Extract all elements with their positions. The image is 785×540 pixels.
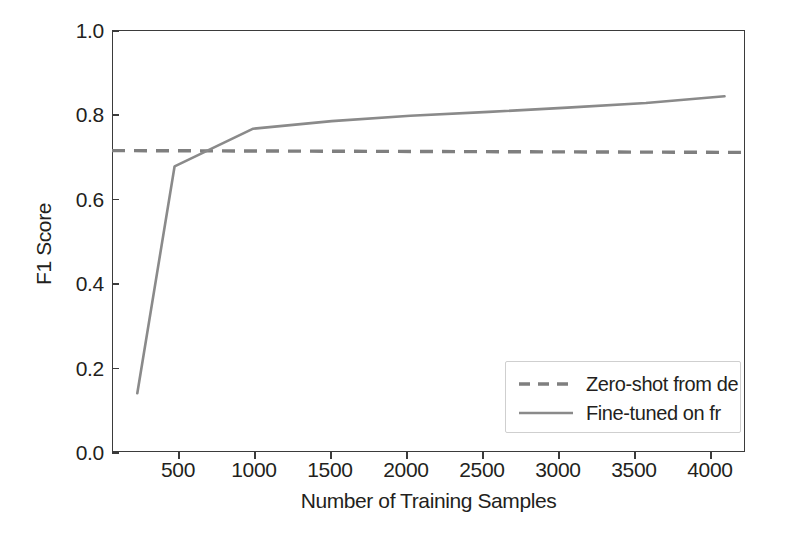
legend-label-zero-shot-from-de: Zero-shot from de [586,373,738,395]
ytick-mark-0.2 [112,368,119,370]
legend: Zero-shot from de Fine-tuned on fr [505,361,741,433]
solid-line-icon [518,406,574,420]
chart-figure: 1.0 0.8 0.6 0.4 0.2 0.0 500 1000 1500 20… [0,0,785,540]
legend-label-fine-tuned-on-fr: Fine-tuned on fr [586,402,721,424]
x-axis-label: Number of Training Samples [112,489,745,513]
dashed-line-icon [518,377,574,391]
legend-item-zero-shot-from-de: Zero-shot from de [506,369,740,398]
legend-item-fine-tuned-on-fr: Fine-tuned on fr [506,398,740,427]
xtick-label-1500: 1500 [307,458,353,481]
ytick-label-0.0: 0.0 [44,442,104,463]
xtick-label-2500: 2500 [459,458,505,481]
ytick-mark-0.6 [112,199,119,201]
ytick-label-1.0: 1.0 [44,20,104,41]
xtick-label-2000: 2000 [383,458,429,481]
y-axis-label: F1 Score [32,164,56,324]
xtick-label-3000: 3000 [535,458,581,481]
xtick-4000: 4000 [660,458,760,482]
ytick-mark-0.8 [112,114,119,116]
ytick-mark-1.0 [112,30,119,32]
ytick-label-0.8: 0.8 [44,104,104,125]
xtick-label-500: 500 [161,458,195,481]
series-fine-tuned-on-fr [137,96,724,393]
ytick-mark-0.0 [112,452,119,454]
xtick-label-1000: 1000 [231,458,277,481]
ytick-label-0.2: 0.2 [44,358,104,379]
xtick-label-3500: 3500 [611,458,657,481]
ytick-mark-0.4 [112,283,119,285]
xtick-label-4000: 4000 [687,458,733,481]
